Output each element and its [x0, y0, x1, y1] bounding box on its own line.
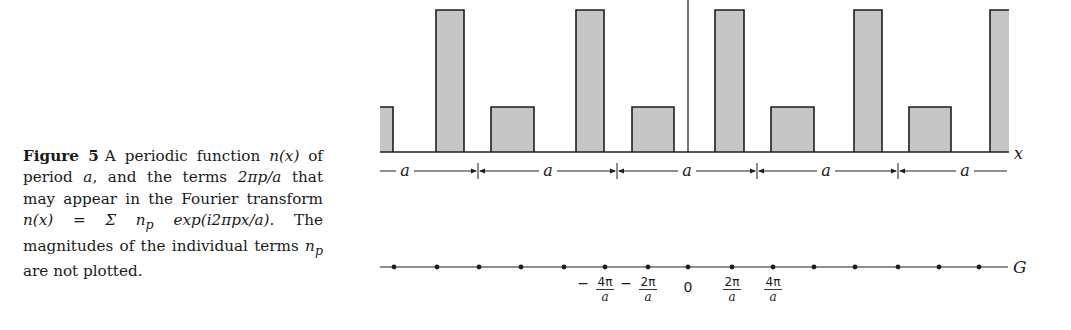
g-tick-label: 2πa	[723, 275, 741, 304]
lattice-point	[435, 265, 440, 270]
arrowhead-icon	[899, 169, 905, 174]
bar-tall	[436, 10, 464, 152]
lattice-point	[562, 265, 567, 270]
bar-short	[632, 107, 674, 152]
arrowhead-icon	[618, 169, 624, 174]
lattice-point	[646, 265, 651, 270]
lattice-point	[392, 265, 397, 270]
lattice-point	[730, 265, 735, 270]
lattice-point	[771, 265, 776, 270]
arrowhead-icon	[750, 169, 756, 174]
g-tick-label: −2πa	[620, 275, 657, 304]
g-axis-label: G	[1013, 257, 1027, 277]
svg-text:a: a	[769, 290, 776, 304]
bar-short	[380, 107, 393, 152]
bar-tall	[990, 10, 1009, 152]
period-label: a	[543, 161, 553, 180]
reciprocal-lattice-axis: G−4πa−2πa02πa4πa	[380, 257, 1027, 304]
lattice-point	[686, 265, 691, 270]
bar-short	[491, 107, 534, 152]
period-label: a	[821, 161, 831, 180]
svg-text:0: 0	[684, 279, 693, 295]
arrowhead-icon	[471, 169, 477, 174]
arrowhead-icon	[610, 169, 616, 174]
arrowhead-icon	[479, 169, 485, 174]
svg-text:2π: 2π	[725, 275, 740, 289]
lattice-point	[853, 265, 858, 270]
svg-text:2π: 2π	[641, 275, 656, 289]
svg-text:a: a	[644, 290, 651, 304]
g-tick-label: −4πa	[577, 275, 614, 304]
period-label: a	[682, 161, 692, 180]
lattice-point	[977, 265, 982, 270]
bar-tall	[576, 10, 604, 152]
svg-text:−: −	[577, 275, 589, 291]
svg-text:−: −	[620, 275, 632, 291]
g-tick-label: 0	[684, 279, 693, 295]
svg-text:a: a	[601, 290, 608, 304]
lattice-point	[896, 265, 901, 270]
figure-diagram: xaaaaa G−4πa−2πa02πa4πa	[0, 0, 1071, 330]
x-axis-label: x	[1014, 144, 1023, 163]
lattice-point	[603, 265, 608, 270]
arrowhead-icon	[891, 169, 897, 174]
lattice-point	[519, 265, 524, 270]
svg-text:a: a	[728, 290, 735, 304]
lattice-point	[477, 265, 482, 270]
period-label: a	[400, 161, 410, 180]
bar-tall	[854, 10, 882, 152]
lattice-point	[937, 265, 942, 270]
period-label: a	[960, 161, 970, 180]
bar-short	[771, 107, 814, 152]
g-tick-label: 4πa	[764, 275, 782, 304]
periodic-function-plot: xaaaaa	[380, 0, 1023, 180]
bar-short	[909, 107, 951, 152]
svg-text:4π: 4π	[598, 275, 613, 289]
svg-text:4π: 4π	[766, 275, 781, 289]
lattice-point	[812, 265, 817, 270]
bar-tall	[715, 10, 744, 152]
arrowhead-icon	[758, 169, 764, 174]
